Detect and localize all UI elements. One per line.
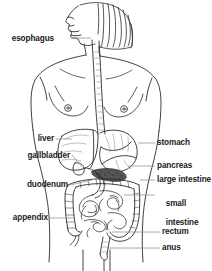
head-outline xyxy=(66,6,95,46)
label-pancreas: pancreas xyxy=(157,161,192,170)
label-small-intestine-line1: small xyxy=(166,199,186,208)
esophagus-organ xyxy=(92,40,105,134)
torso-outline xyxy=(31,55,161,271)
anus-organ xyxy=(100,254,107,260)
pancreas-organ xyxy=(92,169,126,182)
hair xyxy=(80,3,133,50)
label-rectum: rectum xyxy=(162,227,189,236)
label-gallbladder: gallbladder xyxy=(0,151,70,160)
label-anus: anus xyxy=(162,243,181,252)
label-large-intestine: large intestine xyxy=(157,175,211,184)
label-stomach: stomach xyxy=(157,138,190,147)
stomach-organ xyxy=(100,130,138,172)
label-esophagus: esophagus xyxy=(2,34,54,43)
label-small-intestine-line2: intestine xyxy=(166,218,199,227)
rectum-organ xyxy=(100,237,110,271)
label-appendix: appendix xyxy=(2,213,48,222)
label-liver: liver xyxy=(2,134,54,143)
leader-lines xyxy=(50,38,160,248)
appendix-organ xyxy=(70,235,79,246)
anatomy-diagram: esophagus liver gallbladder duodenum app… xyxy=(0,0,212,271)
label-duodenum: duodenum xyxy=(2,180,68,189)
small-intestine-organ xyxy=(79,191,126,237)
clavicle xyxy=(60,69,132,79)
